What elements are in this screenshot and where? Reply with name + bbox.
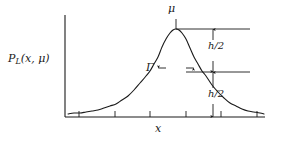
peak-label-mu: μ [168, 3, 175, 14]
upper-half-height-label: h/2 [208, 41, 224, 51]
x-axis-label: x [155, 123, 161, 134]
lorentzian-curve [68, 29, 264, 114]
lorentzian-figure: PL(x, μ) x μ Γ h/2 h/2 [0, 0, 286, 142]
axes-group [65, 15, 265, 117]
y-axis-label: PL(x, μ) [8, 53, 50, 66]
plot-canvas [0, 0, 286, 142]
x-axis-ticks [79, 111, 257, 117]
lower-half-height-label: h/2 [208, 89, 224, 99]
fwhm-label-gamma: Γ [146, 62, 154, 73]
y-axis-label-args: (x, μ) [21, 52, 50, 65]
